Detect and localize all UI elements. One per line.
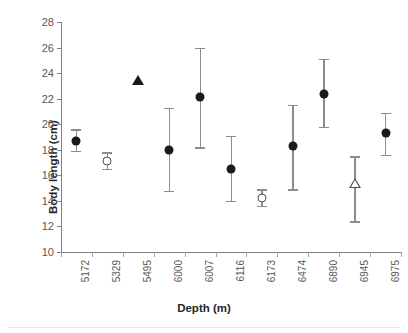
error-bar-cap-upper <box>102 152 112 153</box>
y-axis-tick-label: 20 <box>42 119 54 130</box>
chart-figure: Body length (cm) 10121416182022242628 51… <box>0 0 408 333</box>
error-bar-cap-upper <box>195 48 205 49</box>
y-axis-tick-label: 18 <box>42 144 54 155</box>
y-axis-tick <box>57 73 61 74</box>
y-axis-tick-label: 10 <box>42 247 54 258</box>
marker-circle-open <box>103 157 112 166</box>
error-bar-cap-upper <box>319 59 329 60</box>
x-axis-tick-label: 6945 <box>360 260 370 282</box>
x-axis-tick-label: 6173 <box>267 260 277 282</box>
x-axis-tick <box>339 252 340 257</box>
y-axis-tick <box>57 226 61 227</box>
marker-circle-filled <box>319 89 328 98</box>
marker-circle-open <box>257 194 266 203</box>
error-bar-cap-lower <box>164 191 174 192</box>
error-bar-cap-lower <box>288 189 298 190</box>
y-axis-tick <box>57 99 61 100</box>
y-axis-tick-label: 12 <box>42 221 54 232</box>
error-bar-cap-upper <box>350 156 360 157</box>
x-axis-tick <box>216 252 217 257</box>
x-axis-tick-label: 6890 <box>329 260 339 282</box>
x-axis-tick-label: 5172 <box>81 260 91 282</box>
y-axis-tick-label: 28 <box>42 17 54 28</box>
marker-circle-filled <box>165 145 174 154</box>
x-axis-tick-label: 5495 <box>143 260 153 282</box>
y-axis-tick <box>57 48 61 49</box>
x-axis-tick-label: 6000 <box>174 260 184 282</box>
x-axis-tick-label: 5329 <box>112 260 122 282</box>
y-axis-tick-label: 16 <box>42 170 54 181</box>
y-axis-tick <box>57 124 61 125</box>
error-bar-cap-upper <box>381 113 391 114</box>
y-axis-tick <box>57 201 61 202</box>
x-axis-tick-label: 6474 <box>298 260 308 282</box>
y-axis-tick-label: 26 <box>42 42 54 53</box>
marker-circle-filled <box>381 129 390 138</box>
x-axis-tick-label: 6975 <box>391 260 401 282</box>
error-bar-cap-upper <box>71 129 81 130</box>
y-axis-tick-label: 24 <box>42 68 54 79</box>
y-axis-tick <box>57 150 61 151</box>
error-bar-cap-lower <box>226 201 236 202</box>
error-bar-cap-upper <box>257 189 267 190</box>
error-bar-cap-lower <box>350 221 360 222</box>
x-axis-line <box>61 252 401 253</box>
error-bar-cap-upper <box>226 136 236 137</box>
x-axis-tick <box>401 252 402 257</box>
marker-circle-filled <box>196 93 205 102</box>
x-axis-tick <box>123 252 124 257</box>
x-axis-tick <box>92 252 93 257</box>
error-bar <box>354 156 355 221</box>
marker-triangle-open <box>349 178 361 188</box>
x-axis-tick <box>308 252 309 257</box>
y-axis-tick-label: 14 <box>42 195 54 206</box>
y-axis-tick <box>57 22 61 23</box>
x-axis-tick-label: 6116 <box>236 260 246 282</box>
error-bar-cap-upper <box>288 105 298 106</box>
error-bar-cap-lower <box>319 127 329 128</box>
x-axis-tick <box>277 252 278 257</box>
plot-area: 10121416182022242628 5172532954956000600… <box>61 22 401 252</box>
x-axis-title: Depth (m) <box>0 302 408 314</box>
error-bar-cap-lower <box>102 169 112 170</box>
error-bar-cap-lower <box>195 147 205 148</box>
marker-circle-filled <box>72 136 81 145</box>
marker-circle-filled <box>288 141 297 150</box>
y-axis-line <box>61 22 62 252</box>
x-axis-tick <box>61 252 62 257</box>
error-bar-cap-upper <box>164 108 174 109</box>
error-bar-cap-lower <box>381 155 391 156</box>
error-bar-cap-lower <box>257 206 267 207</box>
x-axis-tick <box>246 252 247 257</box>
y-axis-tick-label: 22 <box>42 93 54 104</box>
x-axis-tick <box>370 252 371 257</box>
y-axis-tick <box>57 175 61 176</box>
marker-triangle-filled <box>132 75 144 85</box>
x-axis-tick <box>154 252 155 257</box>
marker-circle-filled <box>227 164 236 173</box>
x-axis-tick <box>185 252 186 257</box>
footer-divider <box>8 327 400 328</box>
x-axis-tick-label: 6007 <box>205 260 215 282</box>
error-bar-cap-lower <box>71 151 81 152</box>
